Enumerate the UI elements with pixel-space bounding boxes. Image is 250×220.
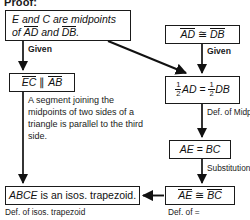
ae-eq-bc-expression: AE = BC (180, 143, 221, 155)
justification-paragraph: A segment joining the midpoints of two s… (28, 95, 150, 143)
half-ad-eq-half-db-expression: 1 2 AD = 1 2 DB (175, 82, 230, 98)
reason-given-left: Given (28, 44, 52, 54)
congruent-symbol: ≅ (195, 189, 204, 201)
parallel-symbol: ∥ (39, 76, 45, 88)
segment-bc: BC (207, 189, 222, 201)
segment-db: DB (210, 28, 225, 40)
statement-box-ae-cong-bc: AE ≅ BC (165, 186, 235, 205)
reason-given-right: Given (207, 46, 231, 56)
reason-def-of-equal: Def. of = (168, 207, 200, 217)
fraction-one-half: 1 2 (175, 81, 181, 97)
segment-ad: AD (24, 26, 39, 38)
statement-box-conclusion: ABCE is an isos. trapezoid. (5, 186, 140, 205)
equals-symbol: = (199, 83, 205, 95)
segment-db: DB (62, 26, 77, 38)
segment-ad: AD (180, 28, 195, 40)
midpoints-line2: of AD and DB. (12, 26, 79, 38)
reason-substitution: Substitution (207, 163, 250, 173)
equals-symbol: = (197, 143, 203, 155)
ec-parallel-ab-expression: EC ∥ AB (22, 76, 62, 88)
ad-cong-db-expression: AD ≅ DB (180, 28, 224, 40)
segment-ae: AE (178, 189, 192, 201)
segment-ec: EC (22, 76, 37, 88)
segment-ab: AB (48, 76, 62, 88)
statement-box-half-ad-eq-half-db: 1 2 AD = 1 2 DB (165, 76, 240, 104)
ae-cong-bc-expression: AE ≅ BC (178, 189, 221, 201)
reason-def-of-midpoint: Def. of Midpt. (207, 107, 250, 117)
conclusion-expression: ABCE is an isos. trapezoid. (9, 189, 136, 201)
midpoints-line1: E and C are midpoints (12, 13, 116, 25)
statement-box-ae-eq-bc: AE = BC (169, 140, 231, 159)
reason-def-of-isos-trapezoid: Def. of isos. trapezoid (5, 207, 85, 217)
proof-diagram: Proof: E and C are midpoints of AD and D… (0, 0, 250, 220)
statement-box-ec-parallel-ab: EC ∥ AB (9, 73, 75, 92)
arrow-diagonal-to-half (108, 41, 186, 73)
statement-box-ad-cong-db: AD ≅ DB (165, 25, 240, 44)
statement-box-given-midpoints: E and C are midpoints of AD and DB. (5, 10, 131, 41)
congruent-symbol: ≅ (198, 28, 207, 40)
fraction-one-half: 1 2 (208, 81, 214, 97)
